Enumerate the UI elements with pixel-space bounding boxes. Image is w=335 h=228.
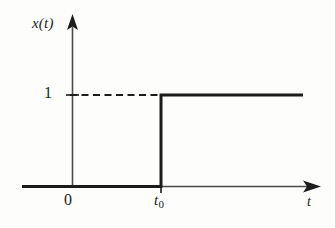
x-tick-label-t0-subscript: 0	[158, 198, 164, 210]
x-tick-label-0: 0	[64, 192, 72, 208]
y-tick-label-1: 1	[44, 85, 52, 101]
step-function-figure: x(t) t 1 0 t0	[0, 0, 335, 228]
plot-canvas	[0, 0, 335, 228]
x-axis-label: t	[307, 195, 311, 209]
step-function-curve	[22, 95, 303, 187]
y-axis-label: x(t)	[32, 16, 54, 31]
x-tick-label-t0: t0	[154, 193, 164, 210]
